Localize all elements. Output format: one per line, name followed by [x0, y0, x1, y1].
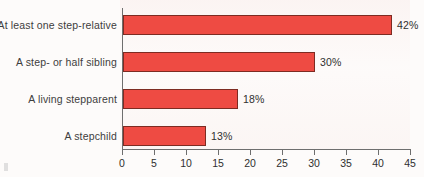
x-tick-7	[346, 150, 347, 155]
x-tick-label-0: 0	[119, 157, 125, 169]
y-axis-line	[122, 8, 123, 150]
x-tick-label-6: 30	[308, 157, 320, 169]
bar-3	[123, 126, 206, 146]
x-tick-label-5: 25	[276, 157, 288, 169]
x-tick-label-7: 35	[340, 157, 352, 169]
value-label-2: 18%	[243, 93, 264, 105]
x-axis-line	[122, 149, 411, 150]
x-tick-label-8: 40	[372, 157, 384, 169]
x-tick-label-3: 15	[212, 157, 224, 169]
x-tick-9	[410, 150, 411, 155]
x-tick-5	[282, 150, 283, 155]
bar-chart: At least one step-relative A step- or ha…	[0, 0, 424, 177]
category-label-0: At least one step-relative	[0, 19, 122, 31]
plot-area: At least one step-relative A step- or ha…	[0, 0, 424, 177]
value-label-1: 30%	[320, 56, 341, 68]
category-label-2: A living stepparent	[28, 93, 122, 105]
x-tick-1	[154, 150, 155, 155]
x-tick-2	[186, 150, 187, 155]
x-tick-label-9: 45	[404, 157, 416, 169]
bar-0	[123, 15, 392, 35]
category-label-1: A step- or half sibling	[16, 56, 122, 68]
x-tick-label-1: 5	[151, 157, 157, 169]
x-tick-0	[122, 150, 123, 155]
x-tick-4	[250, 150, 251, 155]
x-tick-6	[314, 150, 315, 155]
category-label-3: A stepchild	[65, 130, 122, 142]
x-tick-label-2: 10	[180, 157, 192, 169]
value-label-3: 13%	[211, 130, 232, 142]
bar-2	[123, 89, 238, 109]
value-label-0: 42%	[397, 19, 418, 31]
x-tick-8	[378, 150, 379, 155]
bar-1	[123, 52, 315, 72]
x-tick-label-4: 20	[244, 157, 256, 169]
x-tick-3	[218, 150, 219, 155]
